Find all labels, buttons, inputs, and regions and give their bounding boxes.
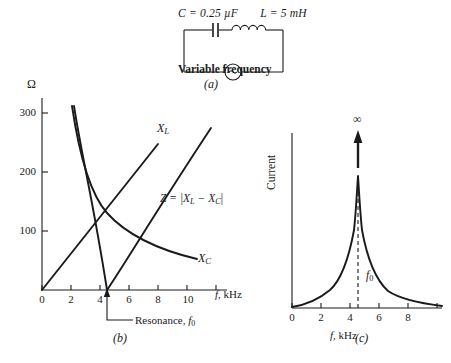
x-tick-label-b-2: 2 [64, 294, 78, 305]
panel-c-x-axis-unit: , kHz [333, 329, 357, 341]
figure-resonance: C = 0.25 µF L = 5 mH [0, 0, 451, 363]
curve-label-z-bar: | [221, 192, 223, 204]
panel-a-caption: (a) [204, 78, 218, 90]
curve-z-left-branch [74, 106, 107, 290]
panel-b-x-axis-label: f, kHz [215, 289, 242, 300]
x-tick-label-b-6: 6 [122, 294, 136, 305]
y-tick-label-300: 300 [10, 107, 36, 118]
x-tick-label-c-8: 8 [401, 312, 415, 323]
curve-label-xl: XL [157, 122, 169, 136]
panel-c-caption: (c) [355, 332, 368, 344]
resonance-annotation-text: Resonance, [135, 314, 188, 326]
x-tick-label-b-10: 10 [179, 294, 197, 305]
resonance-leader-line [107, 311, 133, 320]
x-tick-label-c-6: 6 [372, 312, 386, 323]
f0-subscript-c: 0 [369, 274, 373, 283]
x-tick-label-b-0: 0 [35, 294, 49, 305]
resonance-annotation-subscript: 0 [191, 319, 195, 328]
figure-vector-layer [0, 0, 451, 363]
panel-c-y-axis-label: Current [266, 155, 278, 190]
panel-c-x-axis-label: f, kHz [330, 330, 357, 341]
infinity-arrow-head [354, 130, 363, 143]
curve-label-xc-subscript: C [205, 256, 211, 266]
x-tick-label-c-4: 4 [343, 312, 357, 323]
x-tick-label-c-0: 0 [285, 312, 299, 323]
curve-label-z: Z = |XL − XC| [160, 193, 223, 206]
curve-current-resonance [292, 176, 442, 307]
inductor-coil [232, 25, 266, 30]
y-tick-label-100: 100 [10, 225, 36, 236]
panel-b-x-axis-unit: , kHz [218, 288, 242, 300]
curve-label-xl-subscript: L [164, 126, 169, 136]
curve-xc [72, 106, 197, 259]
curve-label-xc: XC [198, 252, 211, 266]
panel-b-caption: (b) [113, 332, 127, 344]
curve-xl [42, 144, 158, 290]
infinity-arrow [354, 130, 363, 168]
x-tick-label-b-8: 8 [151, 294, 165, 305]
x-tick-label-c-2: 2 [314, 312, 328, 323]
curve-z-right-branch [107, 128, 211, 290]
curve-label-z-prefix: Z = |X [160, 192, 190, 204]
ac-source-caption: Variable frequency [178, 64, 272, 76]
resonance-annotation-label: Resonance, f0 [135, 315, 195, 328]
x-tick-label-b-4: 4 [93, 294, 107, 305]
panel-b-y-axis-label: Ω [27, 78, 36, 90]
infinity-symbol-label: ∞ [353, 113, 362, 125]
y-tick-label-200: 200 [10, 166, 36, 177]
f0-label-panel-c: f0 [366, 270, 373, 283]
curve-label-z-minus: − X [195, 192, 216, 204]
